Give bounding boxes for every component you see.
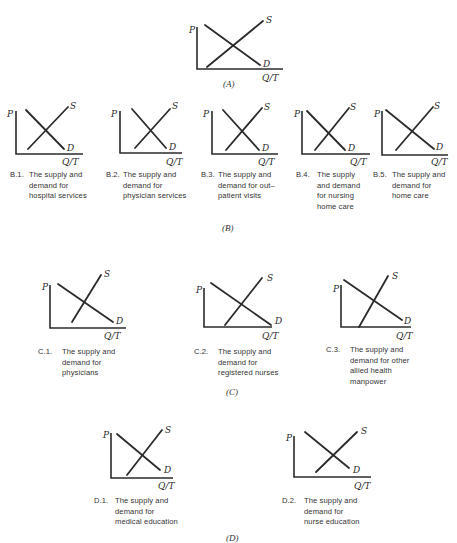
caption-b5: B.5. The supply and demand for home care (373, 170, 445, 202)
caption-number: B.3. (201, 170, 218, 202)
panel-label-a: (A) (223, 79, 235, 89)
supply-curve (316, 432, 357, 472)
supply-label: S (266, 15, 272, 25)
demand-curve (58, 284, 113, 322)
quantity-label: Q/T (158, 481, 175, 491)
demand-label: D (163, 465, 171, 475)
price-label: P (202, 109, 210, 119)
caption-text: The supply and demand for other allied h… (350, 345, 409, 387)
supply-curve (226, 108, 262, 150)
supply-label: S (70, 101, 76, 111)
supply-label: S (104, 269, 110, 279)
supply-label: S (267, 273, 273, 283)
chart-c3: P S D Q/T (332, 271, 413, 341)
demand-label: D (347, 143, 355, 153)
supply-curve (72, 275, 101, 322)
supply-label: S (172, 101, 178, 111)
caption-number: D.2. (282, 496, 304, 528)
supply-curve (28, 107, 68, 149)
demand-label: D (435, 142, 443, 152)
caption-number: C.1. (38, 347, 62, 379)
quantity-label: Q/T (396, 331, 413, 341)
caption-b4: B.4. The supply and demand for nursing h… (296, 170, 360, 212)
supply-label: S (165, 425, 171, 435)
panel-label-c: (C) (226, 387, 238, 397)
caption-text: The supply and demand for hospital servi… (29, 170, 87, 202)
demand-curve (132, 109, 166, 148)
quantity-label: Q/T (350, 157, 367, 167)
caption-b2: B.2. The supply and demand for physician… (106, 170, 186, 202)
demand-curve (307, 111, 345, 150)
caption-text: The supply and demand for out– patient v… (218, 170, 275, 202)
caption-b1: B.1. The supply and demand for hospital … (10, 170, 87, 202)
caption-c2: C.2. The supply and demand for registere… (194, 347, 278, 379)
price-label: P (6, 109, 14, 119)
caption-number: B.1. (10, 170, 29, 202)
quantity-label: Q/T (354, 481, 371, 491)
supply-label: S (264, 102, 270, 112)
quantity-label: Q/T (431, 157, 448, 167)
caption-c1: C.1. The supply and demand for physician… (38, 347, 115, 379)
caption-number: B.2. (106, 170, 123, 202)
supply-label: S (361, 426, 367, 436)
caption-number: C.3. (326, 345, 350, 387)
price-label: P (188, 25, 196, 35)
supply-label: S (350, 102, 356, 112)
axes (341, 285, 411, 327)
figure: P S D Q/T P S D Q/T P S D Q/T (0, 0, 457, 543)
demand-curve (344, 280, 402, 320)
axes (50, 285, 126, 328)
chart-d2: P S D Q/T (285, 426, 371, 491)
quantity-label: Q/T (258, 157, 275, 167)
demand-label: D (403, 316, 411, 326)
quantity-label: Q/T (104, 331, 121, 341)
chart-b1: P S D Q/T (6, 101, 83, 167)
panel-label-b: (B) (222, 223, 234, 233)
caption-text: The supply and demand for physician serv… (123, 170, 186, 202)
supply-curve (225, 278, 262, 325)
chart-a: P S D Q/T (188, 15, 283, 83)
chart-d1: P S D Q/T (102, 425, 175, 491)
caption-number: D.1. (94, 496, 115, 528)
quantity-label: Q/T (62, 157, 79, 167)
quantity-label: Q/T (262, 73, 279, 83)
price-label: P (285, 433, 293, 443)
demand-label: D (352, 465, 360, 475)
price-label: P (41, 282, 49, 292)
caption-text: The supply and demand for home care (392, 170, 445, 202)
demand-curve (386, 110, 434, 149)
caption-d2: D.2. The supply and demand for nurse edu… (282, 496, 360, 528)
price-label: P (110, 109, 118, 119)
supply-label: S (392, 271, 398, 281)
caption-number: C.2. (194, 347, 218, 379)
price-label: P (102, 430, 110, 440)
price-label: P (332, 284, 340, 294)
demand-label: D (115, 316, 123, 326)
demand-label: D (66, 143, 74, 153)
caption-text: The supply and demand for registered nur… (218, 347, 278, 379)
chart-b2: P S D Q/T (110, 101, 183, 167)
demand-label: D (168, 142, 176, 152)
caption-number: B.5. (373, 170, 392, 202)
caption-text: The supply and demand for physicians (62, 347, 115, 379)
supply-label: S (434, 101, 440, 111)
chart-c2: P S D Q/T (195, 273, 282, 341)
demand-label: D (262, 59, 270, 69)
supply-curve (359, 276, 388, 327)
demand-curve (305, 432, 349, 468)
caption-c3: C.3. The supply and demand for other all… (326, 345, 409, 387)
quantity-label: Q/T (262, 331, 279, 341)
supply-curve (315, 108, 349, 150)
caption-text: The supply and demand for medical educat… (115, 496, 178, 528)
caption-text: The supply and demand for nurse educatio… (304, 496, 360, 528)
caption-number: B.4. (296, 170, 317, 212)
supply-curve (135, 109, 170, 148)
demand-curve (26, 110, 64, 149)
chart-b5: P S D Q/T (373, 101, 448, 167)
price-label: P (293, 109, 301, 119)
demand-label: D (261, 143, 269, 153)
quantity-label: Q/T (166, 157, 183, 167)
caption-b3: B.3. The supply and demand for out– pati… (201, 170, 275, 202)
chart-c1: P S D Q/T (41, 269, 126, 341)
demand-label: D (274, 316, 282, 326)
